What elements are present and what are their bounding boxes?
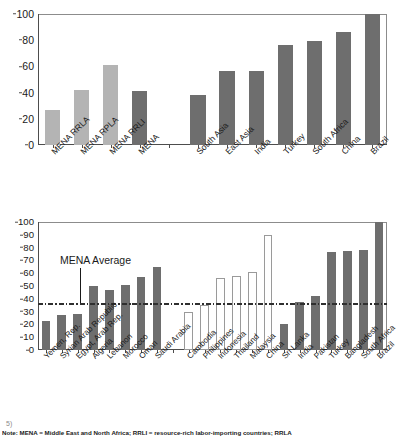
y-tick-label: 90 [23, 230, 34, 240]
figure-note: Note: MENA = Middle East and North Afric… [2, 429, 402, 440]
y-tick-label: 80 [23, 243, 34, 253]
y-tick-mark [13, 14, 16, 15]
bar [278, 45, 293, 145]
y-tick-label: 40 [23, 294, 34, 304]
y-tick-mark [15, 222, 18, 223]
note-label: Note: [2, 429, 18, 436]
y-tick-label: 20 [22, 114, 34, 125]
y-tick-label: 60 [23, 268, 34, 278]
y-tick-label: 30 [23, 307, 34, 317]
y-tick-label: 60 [22, 61, 34, 72]
figure-container: 020406080100 MENA RRLAMENA RPLAMENA RRLI… [0, 0, 404, 441]
y-tick-mark [20, 311, 23, 312]
mena-average-reference-line [38, 303, 387, 304]
x-axis-labels-bottom: Yemen, Rep.Syrian Arab RepublicEgypt, Ar… [38, 350, 387, 430]
y-tick-mark [19, 66, 22, 67]
bar [42, 321, 51, 350]
y-tick-mark [20, 324, 23, 325]
y-tick-mark [20, 234, 23, 235]
y-tick-mark [20, 247, 23, 248]
bar [153, 267, 162, 350]
bar [365, 14, 380, 145]
y-tick-mark [20, 337, 23, 338]
bar [307, 41, 322, 145]
y-tick-mark [20, 260, 23, 261]
y-tick-mark [25, 145, 28, 146]
y-tick-label: 100 [16, 9, 34, 20]
y-tick-label: 0 [28, 140, 34, 151]
y-tick-label: 10 [23, 332, 34, 342]
plot-area-bottom: MENA Average 0102030405060708090100 Yeme… [38, 222, 387, 350]
y-tick-mark [19, 92, 22, 93]
mena-average-annotation-label: MENA Average [60, 255, 131, 266]
y-tick-mark [20, 273, 23, 274]
y-tick-label: 20 [23, 320, 34, 330]
y-tick-mark [20, 286, 23, 287]
mena-average-leader-line [80, 268, 81, 303]
y-tick-mark [19, 118, 22, 119]
y-tick-mark [20, 298, 23, 299]
bar [190, 95, 205, 145]
bar [343, 251, 352, 350]
y-tick-label: 70 [23, 256, 34, 266]
stray-glyph: 5) [6, 420, 12, 427]
y-tick-label: 80 [22, 35, 34, 46]
y-tick-label: 100 [18, 217, 34, 227]
y-tick-mark [19, 40, 22, 41]
y-tick-label: 40 [22, 87, 34, 98]
bar-chart-top: 020406080100 MENA RRLAMENA RPLAMENA RRLI… [0, 0, 404, 200]
y-tick-label: 0 [29, 345, 34, 355]
bar-chart-bottom: MENA Average 0102030405060708090100 Yeme… [0, 212, 404, 427]
plot-area-top: 020406080100 MENA RRLAMENA RPLAMENA RRLI… [38, 14, 387, 145]
y-tick-label: 50 [23, 281, 34, 291]
note-text: MENA = Middle East and North Africa; RRL… [18, 429, 292, 436]
y-tick-mark [26, 350, 29, 351]
